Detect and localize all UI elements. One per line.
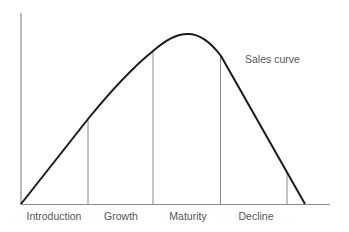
stage-label-introduction: Introduction <box>27 210 82 222</box>
stage-label-maturity: Maturity <box>169 210 206 222</box>
stage-label-decline: Decline <box>238 210 273 222</box>
stage-label-growth: Growth <box>104 210 138 222</box>
product-life-cycle-chart <box>0 0 349 232</box>
sales-curve-label: Sales curve <box>245 53 300 65</box>
